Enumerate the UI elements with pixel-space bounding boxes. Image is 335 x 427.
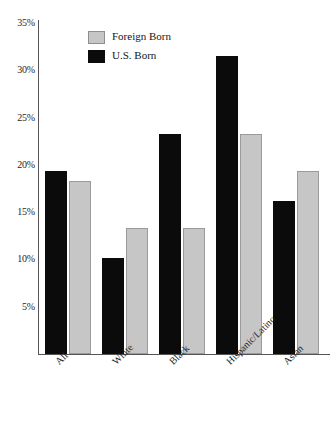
legend-label: Foreign Born xyxy=(112,29,171,44)
bar-us-born xyxy=(273,201,295,354)
legend-swatch-foreign xyxy=(88,31,105,44)
bar-foreign-born xyxy=(69,181,91,354)
bar-us-born xyxy=(216,56,238,354)
y-tick-label: 15% xyxy=(1,207,35,217)
legend-swatch-us xyxy=(88,50,105,63)
y-tick-label: 5% xyxy=(1,302,35,312)
y-tick-label: 35% xyxy=(1,18,35,28)
y-tick-label: 25% xyxy=(1,113,35,123)
bar-us-born xyxy=(45,171,67,354)
bar-us-born xyxy=(102,258,124,354)
plot-area xyxy=(38,18,330,354)
y-tick-label: 30% xyxy=(1,65,35,75)
bar-foreign-born xyxy=(240,134,262,354)
bar-foreign-born xyxy=(126,228,148,354)
y-tick-label: 10% xyxy=(1,254,35,264)
bar-chart: 35%30%25%20%15%10%5% Foreign BornU.S. Bo… xyxy=(0,0,335,427)
bar-us-born xyxy=(159,134,181,354)
bar-foreign-born xyxy=(183,228,205,354)
y-axis-tick-labels: 35%30%25%20%15%10%5% xyxy=(0,0,35,427)
legend-label: U.S. Born xyxy=(112,48,156,63)
y-tick-label: 20% xyxy=(1,160,35,170)
bar-foreign-born xyxy=(297,171,319,354)
